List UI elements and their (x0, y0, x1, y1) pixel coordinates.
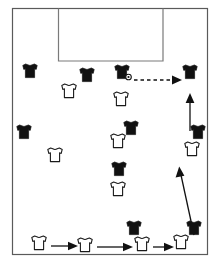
player-light-L1[interactable] (62, 84, 76, 98)
arrow-pass-bottom-2 (97, 243, 133, 251)
field-border (13, 9, 208, 255)
penalty-area-line (59, 9, 164, 62)
soccer-tactics-diagram (0, 0, 219, 263)
ball-icon (126, 74, 132, 80)
player-dark-D1[interactable] (23, 64, 37, 78)
player-light-L4[interactable] (48, 148, 62, 162)
player-dark-D9[interactable] (127, 221, 141, 235)
pitch-canvas (0, 0, 219, 263)
player-light-L6[interactable] (111, 182, 125, 196)
arrow-pass-right-dashed (134, 76, 182, 85)
player-light-L2[interactable] (114, 92, 128, 106)
player-dark-D4[interactable] (183, 65, 197, 79)
player-dark-D8[interactable] (112, 162, 126, 176)
player-dark-D6[interactable] (124, 121, 138, 135)
player-dark-D5[interactable] (17, 125, 31, 139)
player-light-L5[interactable] (185, 142, 199, 156)
arrow-pass-bottom-3 (153, 243, 174, 251)
arrow-pass-bottom-1 (51, 242, 78, 250)
player-dark-D2[interactable] (80, 68, 94, 82)
player-light-L3[interactable] (111, 134, 125, 148)
player-dark-D10[interactable] (187, 221, 201, 235)
player-light-L9[interactable] (135, 237, 149, 251)
player-light-L10[interactable] (174, 235, 188, 249)
player-dark-D7[interactable] (191, 125, 205, 139)
player-light-L8[interactable] (78, 238, 92, 252)
player-light-L7[interactable] (32, 236, 46, 250)
